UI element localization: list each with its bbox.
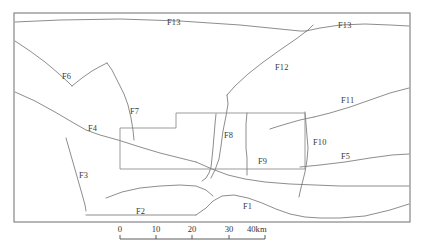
- fault-label-f10: F10: [313, 138, 327, 147]
- fault-labels-group: F13F13F12F6F7F11F4F8F10F9F5F3F2F1: [62, 18, 354, 216]
- scale-bar-label: 20: [188, 224, 197, 234]
- fault-label-f11: F11: [341, 96, 354, 105]
- scale-bar: 010203040km: [118, 224, 267, 239]
- fault-label-f3: F3: [79, 171, 88, 180]
- fault-label-f12: F12: [275, 63, 289, 72]
- fault-map-figure: F13F13F12F6F7F11F4F8F10F9F5F3F2F1 010203…: [0, 0, 422, 250]
- fault-label-f8: F8: [224, 131, 233, 140]
- fault-label-f7: F7: [130, 107, 139, 116]
- fault-label-f6: F6: [62, 72, 71, 81]
- fault-line-f11-west: [270, 117, 314, 129]
- fault-line-f2-curve: [106, 185, 213, 198]
- fault-line-f5: [300, 154, 409, 167]
- fault-line-f7: [107, 63, 134, 140]
- fault-label-f5: F5: [341, 152, 350, 161]
- fault-label-f13b: F13: [338, 21, 352, 30]
- fault-label-f1: F1: [243, 202, 252, 211]
- survey-block-outline: [120, 113, 305, 169]
- fault-label-f9: F9: [258, 157, 267, 166]
- fault-line-f12: [227, 25, 313, 95]
- fault-line-f11: [314, 88, 409, 117]
- scale-bar-label: 0: [118, 224, 122, 234]
- scale-bar-label: 30: [225, 224, 234, 234]
- fault-line-f9: [246, 113, 247, 175]
- fault-label-f4: F4: [88, 124, 98, 133]
- map-frame-border: [14, 13, 410, 222]
- fault-line-f1: [196, 195, 409, 218]
- survey-block-outline-group: [120, 113, 305, 169]
- fault-map-svg: F13F13F12F6F7F11F4F8F10F9F5F3F2F1 010203…: [0, 0, 422, 250]
- fault-label-f2: F2: [136, 207, 145, 216]
- scale-bar-label: 40km: [247, 224, 267, 234]
- scale-bar-label: 10: [152, 224, 161, 234]
- fault-line-f13-north: [15, 19, 306, 31]
- fault-line-f13-northeast: [306, 24, 409, 31]
- fault-lines-group: [15, 19, 409, 218]
- fault-label-f13: F13: [167, 18, 181, 27]
- fault-line-f6-east: [72, 63, 107, 86]
- fault-line-f4: [15, 92, 196, 162]
- fault-line-f8: [202, 114, 216, 181]
